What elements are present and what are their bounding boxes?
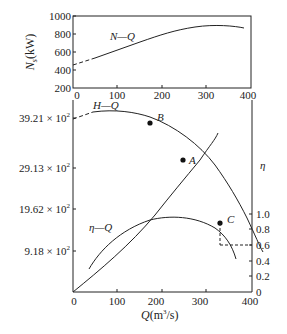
hq-curve xyxy=(93,111,263,252)
nq-curve-dashed xyxy=(73,58,95,65)
hq-curve-dashed xyxy=(73,112,93,119)
eta-axis-label: η xyxy=(260,159,265,171)
eta-q-label: η—Q xyxy=(89,221,112,233)
top-ytick: 600 xyxy=(55,46,72,58)
bottom-xtick: 200 xyxy=(148,295,165,307)
top-frame xyxy=(73,16,251,88)
bottom-xtick: 400 xyxy=(242,295,259,307)
point-c-label: C xyxy=(227,213,235,225)
pump-characteristic-chart: 1000 800 600 400 200 0 100 200 300 400 N… xyxy=(0,0,287,334)
bottom-panel: 39.21 × 102 29.13 × 102 19.62 × 102 9.18… xyxy=(19,99,270,322)
point-a-label: A xyxy=(188,154,196,166)
bottom-xtick: 100 xyxy=(109,295,126,307)
left-tick: 9.18 × 102 xyxy=(25,244,71,257)
right-tick: 0.2 xyxy=(256,270,270,282)
point-b xyxy=(147,120,152,125)
right-tick: 1.0 xyxy=(256,208,270,220)
bottom-xtick: 300 xyxy=(192,295,209,307)
top-ytick: 800 xyxy=(55,28,72,40)
right-tick: 0.6 xyxy=(256,239,270,251)
hq-label: H—Q xyxy=(92,99,119,111)
top-xtick: 200 xyxy=(154,89,171,101)
system-curve xyxy=(73,133,218,292)
point-b-label: B xyxy=(157,111,164,123)
right-tick: 0.8 xyxy=(256,223,270,235)
nq-label: N—Q xyxy=(109,30,135,42)
right-tick: 0.4 xyxy=(256,255,270,267)
top-xtick: 0 xyxy=(74,89,80,101)
top-ytick: 400 xyxy=(55,64,72,76)
top-xtick: 400 xyxy=(240,89,257,101)
top-ylabel: Ns(kW) xyxy=(23,34,39,71)
left-tick: 39.21 × 102 xyxy=(19,111,70,124)
left-tick: 19.62 × 102 xyxy=(19,202,70,215)
top-panel: 1000 800 600 400 200 0 100 200 300 400 N… xyxy=(23,10,257,101)
top-xtick: 300 xyxy=(198,89,215,101)
bottom-xtick: 0 xyxy=(71,295,77,307)
left-tick: 29.13 × 102 xyxy=(19,161,70,174)
point-a xyxy=(180,157,185,162)
top-ytick: 200 xyxy=(55,82,72,94)
top-ytick: 1000 xyxy=(49,10,72,22)
x-axis-label: Q(m3/s) xyxy=(141,308,179,322)
